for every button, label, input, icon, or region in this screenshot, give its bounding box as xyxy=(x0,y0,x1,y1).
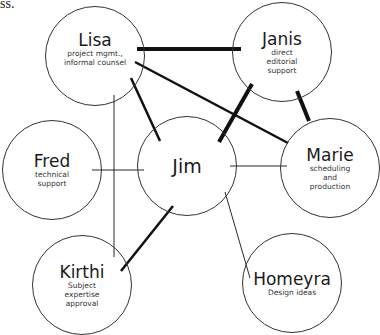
edge-jim-kirthi xyxy=(121,206,173,271)
node-role: scheduling xyxy=(310,164,351,173)
node-name: Kirthi xyxy=(59,263,104,281)
node-janis: Janis direct editorial support xyxy=(232,2,332,102)
node-role: informal counsel xyxy=(64,58,126,67)
node-kirthi: Kirthi Subject expertise approval xyxy=(32,235,132,335)
node-role: technical xyxy=(35,170,69,179)
node-role: production xyxy=(310,182,350,191)
node-homeyra: Homeyra Design ideas xyxy=(242,233,342,333)
node-name: Marie xyxy=(306,146,353,164)
node-jim: Jim xyxy=(137,116,237,216)
node-role: expertise xyxy=(65,290,100,299)
node-name: Fred xyxy=(34,152,70,170)
node-role: and xyxy=(323,173,337,182)
node-name: Lisa xyxy=(78,31,111,49)
node-role: editorial xyxy=(267,57,298,66)
node-fred: Fred technical support xyxy=(2,120,102,220)
node-role: support xyxy=(268,66,297,75)
node-role: Design ideas xyxy=(268,288,316,297)
node-name: Janis xyxy=(262,30,302,48)
node-lisa: Lisa project mgmt., informal counsel xyxy=(45,6,145,106)
node-marie: Marie scheduling and production xyxy=(280,118,380,218)
node-name: Jim xyxy=(172,157,201,175)
node-role: approval xyxy=(66,299,99,308)
node-role: direct xyxy=(271,48,292,57)
node-role: Subject xyxy=(68,281,96,290)
node-name: Homeyra xyxy=(253,270,331,288)
node-role: support xyxy=(38,179,67,188)
node-role: project mgmt., xyxy=(67,49,123,58)
